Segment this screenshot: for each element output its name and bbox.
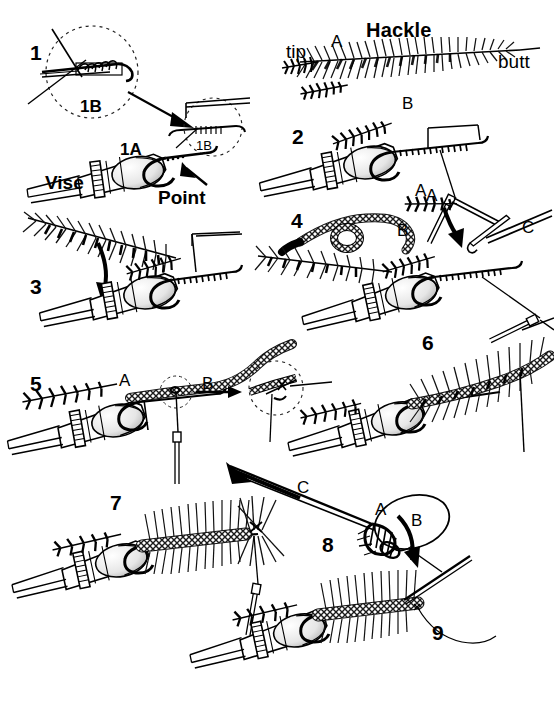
step-7-artwork <box>8 496 284 636</box>
step-number-8: 8 <box>322 534 334 555</box>
step-3-artwork <box>23 212 242 331</box>
sublabel-4a: A <box>426 187 437 204</box>
sublabel-hackle-a: A <box>331 33 342 50</box>
sublabel-5b: B <box>202 375 213 392</box>
sublabel-1b-detail: 1B <box>80 98 102 115</box>
sublabel-4b: B <box>397 222 408 239</box>
step-6-artwork <box>284 318 554 460</box>
step-number-4: 4 <box>291 210 303 231</box>
step-5-artwork <box>4 344 332 484</box>
sublabel-1b-inset: 1B <box>196 139 212 152</box>
step-9-artwork <box>186 556 496 672</box>
hackle-butt-label: butt <box>498 52 530 71</box>
step-number-1: 1 <box>30 42 42 63</box>
hackle-tip-label: tip <box>286 42 306 61</box>
sublabel-2a: A <box>415 182 426 199</box>
step-number-5: 5 <box>30 373 42 394</box>
step-number-3: 3 <box>30 276 42 297</box>
step-number-2: 2 <box>292 126 304 147</box>
sublabel-8c: C <box>297 479 309 496</box>
step-number-7: 7 <box>110 492 122 513</box>
step-number-6: 6 <box>422 332 434 353</box>
illustration-plate: 1 2 3 4 5 6 7 8 9 Hackle tip butt Vise P… <box>0 0 554 706</box>
sublabel-5a: A <box>119 372 130 389</box>
vise-label: Vise <box>45 173 84 192</box>
step-number-9: 9 <box>432 622 444 643</box>
sublabel-1a: 1A <box>120 141 142 158</box>
hackle-title-label: Hackle <box>366 20 432 40</box>
sublabel-8b: B <box>411 512 422 529</box>
sublabel-4c: C <box>522 219 534 236</box>
point-label: Point <box>158 188 206 207</box>
sublabel-8a: A <box>375 501 386 518</box>
sublabel-2b: B <box>402 95 413 112</box>
